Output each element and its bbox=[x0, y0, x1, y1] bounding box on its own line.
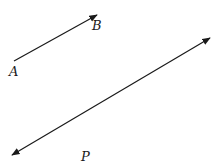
line-p bbox=[12, 38, 210, 155]
vector-ab bbox=[14, 15, 97, 61]
label-a: A bbox=[9, 65, 18, 78]
label-p: P bbox=[81, 150, 90, 163]
diagram-canvas: A B P bbox=[0, 0, 211, 165]
vector-drawing bbox=[0, 0, 211, 165]
label-b: B bbox=[92, 19, 102, 32]
